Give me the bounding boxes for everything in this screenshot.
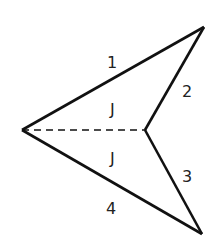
side-label-1: 1 [107,53,117,72]
angle-label-upper: J [109,100,115,119]
dart-diagram: 1 2 J J 3 4 [0,0,218,243]
angle-label-lower: J [109,149,115,168]
side-label-4: 4 [106,199,116,218]
side-4-edge [22,130,202,234]
side-label-2: 2 [182,82,192,101]
side-label-3: 3 [182,167,192,186]
